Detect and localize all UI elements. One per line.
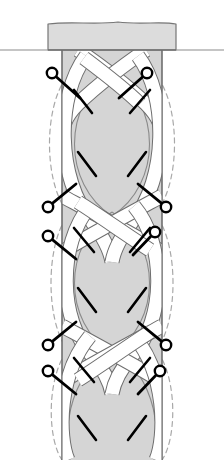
pin-1-head-icon: [47, 68, 57, 78]
braided-band-diagram: [0, 0, 224, 460]
cap-block: [48, 22, 176, 50]
pin-10-head-icon: [155, 366, 165, 376]
pin-6-head-icon: [150, 227, 160, 237]
pin-5-head-icon: [161, 202, 171, 212]
pin-4-head-icon: [43, 231, 53, 241]
pin-7-head-icon: [43, 340, 53, 350]
figure-root: Braided band longitudinal diagram: [0, 0, 224, 460]
pin-8-head-icon: [43, 366, 53, 376]
pin-9-head-icon: [161, 340, 171, 350]
cap-block-group: [48, 22, 176, 50]
pin-2-head-icon: [142, 68, 152, 78]
pin-3-head-icon: [43, 202, 53, 212]
